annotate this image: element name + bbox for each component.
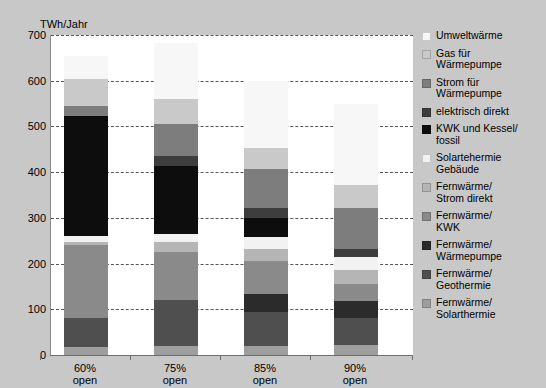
bar-segment[interactable] xyxy=(64,318,108,346)
bar-segment[interactable] xyxy=(244,294,288,311)
legend-item[interactable]: Fernwärme/ Solarthermie xyxy=(422,297,546,320)
x-label-line-2: open xyxy=(315,374,395,386)
y-axis-unit-label: TWh/Jahr xyxy=(40,18,88,30)
y-axis-tick-label: 100 xyxy=(2,303,46,315)
x-label-line-1: 85% xyxy=(225,362,305,374)
bar-segment[interactable] xyxy=(334,208,378,248)
x-axis-tick-label: 85%open xyxy=(225,362,305,386)
bar-segment[interactable] xyxy=(334,270,378,285)
bar-segment[interactable] xyxy=(154,242,198,252)
bar-segment[interactable] xyxy=(334,284,378,301)
bar-segment[interactable] xyxy=(244,218,288,237)
x-label-line-2: open xyxy=(45,374,125,386)
legend-label: Umweltwärme xyxy=(436,30,503,42)
legend-swatch xyxy=(422,154,431,163)
legend-item[interactable]: KWK und Kessel/ fossil xyxy=(422,123,546,146)
legend-label: Fernwärme/ Geothermie xyxy=(436,268,492,291)
bar-segment[interactable] xyxy=(334,257,378,270)
legend-swatch xyxy=(422,79,431,88)
bar-segment[interactable] xyxy=(244,312,288,346)
legend-swatch xyxy=(422,270,431,279)
bar-segment[interactable] xyxy=(154,300,198,346)
bar-segment[interactable] xyxy=(64,106,108,117)
x-axis-tick-label: 60%open xyxy=(45,362,125,386)
x-axis-tick-mark xyxy=(310,355,311,360)
legend-swatch xyxy=(422,183,431,192)
y-axis-tick-label: 500 xyxy=(2,120,46,132)
chart-root: TWh/Jahr 7006005004003002001000 Umweltwä… xyxy=(0,0,546,388)
bar-segment[interactable] xyxy=(154,346,198,355)
x-label-line-1: 60% xyxy=(45,362,125,374)
x-label-line-2: open xyxy=(135,374,215,386)
bar-segment[interactable] xyxy=(154,43,198,99)
bar-segment[interactable] xyxy=(244,237,288,248)
legend-item[interactable]: Fernwärme/ Wärmepumpe xyxy=(422,239,546,262)
legend-item[interactable]: elektrisch direkt xyxy=(422,106,546,118)
bar-segment[interactable] xyxy=(244,148,288,169)
x-axis-tick-mark xyxy=(220,355,221,360)
bar-segment[interactable] xyxy=(334,104,378,185)
legend-swatch xyxy=(422,212,431,221)
bar-segment[interactable] xyxy=(64,79,108,106)
legend-item[interactable]: Solartehermie Gebäude xyxy=(422,152,546,175)
bar-segment[interactable] xyxy=(154,234,198,242)
legend-item[interactable]: Gas für Wärmepumpe xyxy=(422,48,546,71)
legend-swatch xyxy=(422,125,431,134)
bar-segment[interactable] xyxy=(154,124,198,156)
x-axis-tick-mark xyxy=(40,355,41,360)
y-axis-tick-label: 600 xyxy=(2,75,46,87)
bar-segment[interactable] xyxy=(64,245,108,318)
bar-segment[interactable] xyxy=(244,208,288,218)
bar-segment[interactable] xyxy=(334,345,378,355)
bar-segment[interactable] xyxy=(64,347,108,355)
x-label-line-1: 90% xyxy=(315,362,395,374)
y-axis-tick-label: 300 xyxy=(2,212,46,224)
legend-item[interactable]: Fernwärme/ Strom direkt xyxy=(422,181,546,204)
legend-label: Fernwärme/ Solarthermie xyxy=(436,297,496,320)
bar-stack[interactable] xyxy=(244,35,288,355)
legend-swatch xyxy=(422,299,431,308)
y-axis-tick-label: 700 xyxy=(2,29,46,41)
bar-stack[interactable] xyxy=(154,35,198,355)
legend-swatch xyxy=(422,50,431,59)
bar-segment[interactable] xyxy=(154,156,198,166)
x-label-line-2: open xyxy=(225,374,305,386)
bar-segment[interactable] xyxy=(244,261,288,294)
bar-segment[interactable] xyxy=(334,301,378,318)
legend-item[interactable]: Strom für Wärmepumpe xyxy=(422,77,546,100)
bar-segment[interactable] xyxy=(64,56,108,80)
bar-segment[interactable] xyxy=(154,166,198,234)
bar-segment[interactable] xyxy=(244,81,288,149)
bar-stack[interactable] xyxy=(334,35,378,355)
bar-segment[interactable] xyxy=(244,249,288,262)
x-axis-tick-mark xyxy=(412,355,413,360)
y-axis-ticks: 7006005004003002001000 xyxy=(0,35,46,355)
bar-segment[interactable] xyxy=(64,116,108,236)
legend-item[interactable]: Fernwärme/ Geothermie xyxy=(422,268,546,291)
legend-label: Gas für Wärmepumpe xyxy=(436,48,502,71)
legend: UmweltwärmeGas für WärmepumpeStrom für W… xyxy=(422,30,546,326)
bar-segment[interactable] xyxy=(334,318,378,345)
bar-stack[interactable] xyxy=(64,35,108,355)
legend-swatch xyxy=(422,108,431,117)
x-axis-line xyxy=(50,355,413,356)
legend-item[interactable]: Fernwärme/ KWK xyxy=(422,210,546,233)
legend-label: KWK und Kessel/ fossil xyxy=(436,123,518,146)
legend-label: Fernwärme/ KWK xyxy=(436,210,492,233)
legend-label: Solartehermie Gebäude xyxy=(436,152,501,175)
y-axis-tick-label: 400 xyxy=(2,166,46,178)
legend-label: Strom für Wärmepumpe xyxy=(436,77,502,100)
legend-item[interactable]: Umweltwärme xyxy=(422,30,546,42)
plot-area xyxy=(50,35,413,355)
bar-segment[interactable] xyxy=(334,185,378,209)
legend-label: Fernwärme/ Strom direkt xyxy=(436,181,493,204)
x-axis-tick-label: 75%open xyxy=(135,362,215,386)
bar-segment[interactable] xyxy=(154,252,198,300)
legend-label: elektrisch direkt xyxy=(436,106,509,118)
x-axis-tick-label: 90%open xyxy=(315,362,395,386)
bar-segment[interactable] xyxy=(244,169,288,208)
bar-segment[interactable] xyxy=(244,346,288,355)
legend-swatch xyxy=(422,32,431,41)
bar-segment[interactable] xyxy=(154,99,198,124)
bar-segment[interactable] xyxy=(334,249,378,257)
